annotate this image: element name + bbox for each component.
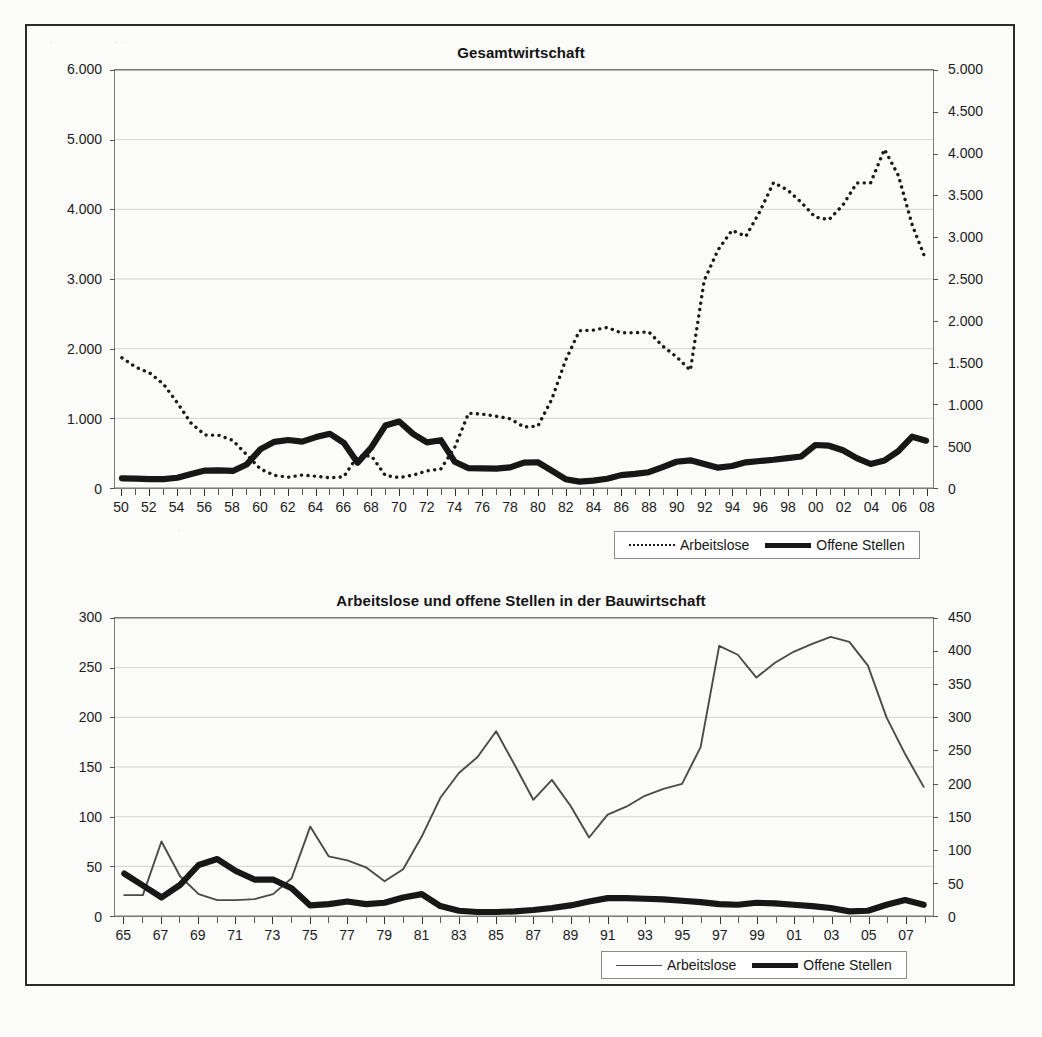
right-axis-tick-label: 4.000 — [948, 146, 983, 160]
x-axis-label: 06 — [891, 499, 907, 515]
x-axis-label: 86 — [613, 499, 629, 515]
legend-item-offene-stellen-bottom[interactable]: Offene Stellen — [752, 957, 891, 973]
x-tick-mark — [621, 489, 622, 496]
x-axis-label: 88 — [641, 499, 657, 515]
x-tick-mark — [524, 489, 525, 495]
left-axis-tick-label: 5.000 — [67, 132, 102, 146]
x-axis-label: 81 — [414, 927, 430, 943]
legend-label: Arbeitslose — [667, 957, 736, 973]
x-axis-label: 05 — [861, 927, 877, 943]
right-axis-tick-mark — [933, 651, 938, 652]
x-tick-mark — [627, 917, 628, 923]
x-axis-label: 54 — [169, 499, 185, 515]
thick-line-icon — [765, 543, 811, 548]
x-axis-label: 95 — [675, 927, 691, 943]
right-axis-tick-label: 250 — [948, 743, 971, 757]
x-axis-label: 90 — [669, 499, 685, 515]
left-axis-tick-mark — [110, 418, 115, 419]
chart-title-bottom: Arbeitslose und offene Stellen in der Ba… — [30, 592, 1012, 609]
x-tick-mark — [571, 917, 572, 924]
left-axis-tick-mark — [110, 349, 115, 350]
chart-bauwirtschaft: Arbeitslose und offene Stellen in der Ba… — [30, 588, 1012, 988]
x-tick-mark — [705, 489, 706, 496]
x-tick-mark — [774, 489, 775, 495]
legend-top[interactable]: Arbeitslose Offene Stellen — [614, 531, 920, 559]
x-tick-mark — [871, 489, 872, 496]
x-axis-label: 01 — [786, 927, 802, 943]
right-axis-tick-label: 350 — [948, 677, 971, 691]
x-axis-label: 68 — [363, 499, 379, 515]
right-axis-tick-label: 200 — [948, 777, 971, 791]
x-tick-mark — [691, 489, 692, 495]
x-axis-label: 98 — [780, 499, 796, 515]
x-tick-mark — [218, 489, 219, 495]
x-tick-mark — [732, 489, 733, 496]
x-tick-mark — [925, 917, 926, 923]
x-tick-mark — [538, 489, 539, 496]
x-tick-mark — [635, 489, 636, 495]
x-tick-mark — [580, 489, 581, 495]
right-axis-tick-label: 400 — [948, 643, 971, 657]
x-tick-mark — [813, 917, 814, 923]
legend-bottom[interactable]: Arbeitslose Offene Stellen — [601, 951, 907, 979]
x-tick-mark — [246, 489, 247, 495]
x-axis-label: 00 — [808, 499, 824, 515]
x-axis-label: 97 — [712, 927, 728, 943]
left-axis-tick-label: 3.000 — [67, 272, 102, 286]
x-tick-mark — [385, 489, 386, 495]
x-axis-label: 87 — [526, 927, 542, 943]
legend-item-arbeitslose-bottom[interactable]: Arbeitslose — [616, 957, 736, 973]
right-axis-tick-mark — [933, 883, 938, 884]
x-tick-mark — [776, 917, 777, 923]
right-axis-tick-mark — [933, 404, 938, 405]
x-tick-mark — [906, 917, 907, 924]
right-axis-tick-mark — [933, 717, 938, 718]
right-axis-tick-label: 0 — [948, 910, 956, 924]
right-axis-tick-mark — [933, 750, 938, 751]
x-tick-mark — [357, 489, 358, 495]
left-axis-tick-mark — [110, 70, 115, 71]
x-tick-mark — [533, 917, 534, 924]
x-tick-mark — [403, 917, 404, 923]
x-tick-mark — [552, 489, 553, 495]
x-tick-mark — [347, 917, 348, 924]
x-tick-mark — [328, 917, 329, 923]
right-axis-tick-mark — [933, 195, 938, 196]
x-axis-label: 82 — [558, 499, 574, 515]
legend-item-offene-stellen-top[interactable]: Offene Stellen — [765, 537, 904, 553]
left-axis-tick-label: 200 — [79, 710, 102, 724]
left-axis-tick-label: 2.000 — [67, 342, 102, 356]
right-axis-tick-label: 2.000 — [948, 314, 983, 328]
legend-label: Arbeitslose — [680, 537, 749, 553]
x-tick-mark — [830, 489, 831, 495]
right-axis-bottom: 050100150200250300350400450 — [938, 617, 994, 917]
x-tick-mark — [677, 489, 678, 496]
x-tick-mark — [738, 917, 739, 923]
x-axis-label: 64 — [308, 499, 324, 515]
x-axis-label: 72 — [419, 499, 435, 515]
series-line-offene-stellen — [124, 859, 923, 912]
x-axis-label: 66 — [336, 499, 352, 515]
x-tick-mark — [274, 489, 275, 495]
legend-item-arbeitslose-top[interactable]: Arbeitslose — [629, 537, 749, 553]
x-tick-mark — [720, 917, 721, 924]
chart-gesamtwirtschaft: Gesamtwirtschaft 01.0002.0003.0004.0005.… — [30, 30, 1012, 575]
x-axis-label: 92 — [697, 499, 713, 515]
left-axis-tick-mark — [110, 279, 115, 280]
x-tick-mark — [179, 917, 180, 923]
x-tick-mark — [161, 917, 162, 924]
right-axis-tick-label: 1.000 — [948, 398, 983, 412]
left-axis-tick-mark — [110, 209, 115, 210]
x-tick-mark — [427, 489, 428, 496]
x-axis-label: 58 — [224, 499, 240, 515]
x-tick-mark — [440, 917, 441, 923]
x-tick-mark — [468, 489, 469, 495]
x-tick-mark — [291, 917, 292, 923]
legend-label: Offene Stellen — [803, 957, 891, 973]
left-axis-tick-label: 50 — [86, 860, 102, 874]
left-axis-tick-mark — [110, 817, 115, 818]
x-axis-label: 91 — [600, 927, 616, 943]
x-tick-mark — [310, 917, 311, 924]
right-axis-tick-label: 500 — [948, 440, 971, 454]
x-tick-mark — [232, 489, 233, 496]
